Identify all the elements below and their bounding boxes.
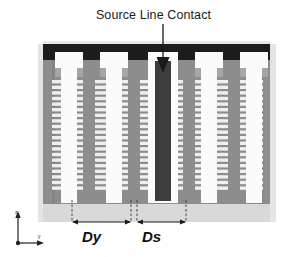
top-metal-opening [55,52,83,61]
source-line-contact [148,55,178,203]
axis-label-z: z [15,209,18,215]
source-line-contact-core [155,60,171,201]
source-line-contact-title: Source Line Contact [0,8,307,22]
axis-origin-dot [16,241,20,245]
top-metal-layer [43,41,270,61]
top-cap-strip [43,41,270,44]
dimension-label-ds: Ds [142,228,161,245]
cross-section-diagram [0,0,307,257]
top-metal-opening [240,52,268,61]
left-margin-strip [38,44,43,222]
top-metal-opening [100,52,128,61]
top-metal-opening [195,52,223,61]
dimension-label-dy: Dy [82,228,101,245]
figure-container: Source Line Contact [0,0,307,257]
axis-label-y: y [38,233,41,239]
right-margin-strip [270,44,276,222]
